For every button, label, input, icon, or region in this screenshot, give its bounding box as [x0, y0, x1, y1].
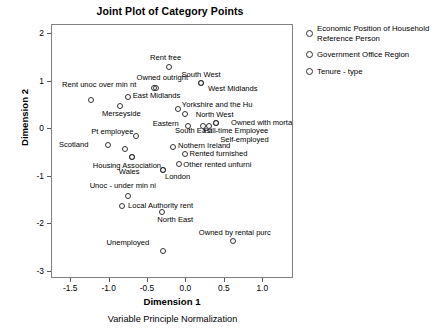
data-point-label: Merseyside — [102, 109, 141, 118]
legend-item[interactable]: Economic Position of Household Reference… — [306, 24, 434, 43]
x-tick — [70, 278, 71, 282]
data-point — [119, 203, 125, 209]
data-point-label: Wales — [119, 167, 140, 176]
data-point — [175, 106, 181, 112]
data-point — [213, 120, 219, 126]
legend-item-label: Tenure - type — [317, 67, 363, 77]
x-tick — [224, 278, 225, 282]
y-tick-label: -2 — [37, 218, 44, 228]
y-tick — [47, 33, 51, 34]
x-tick — [109, 278, 110, 282]
data-point — [176, 161, 182, 167]
y-tick — [47, 128, 51, 129]
open-circle-icon — [306, 51, 313, 58]
data-point-label: Rent free — [150, 53, 181, 62]
y-tick — [47, 271, 51, 272]
data-point-label: West Midlands — [208, 84, 258, 93]
data-point-label: Yorkshire and the Hu — [182, 100, 253, 109]
y-tick-label: 2 — [39, 28, 44, 38]
data-point — [230, 238, 236, 244]
data-point-label: Owned by rental purc — [199, 228, 271, 237]
x-tick — [185, 278, 186, 282]
y-tick-label: -3 — [37, 266, 44, 276]
x-tick-label: 1.0 — [256, 283, 268, 293]
y-tick — [47, 81, 51, 82]
y-tick-label: 1 — [39, 76, 44, 86]
data-point-label: East Midlands — [133, 91, 181, 100]
data-point — [166, 64, 172, 70]
data-point-label: Rented furnished — [190, 149, 248, 158]
x-tick-label: -0.5 — [140, 283, 154, 293]
chart-footnote: Variable Principle Normalization — [35, 314, 310, 324]
chart-title: Joint Plot of Category Points — [40, 5, 300, 17]
y-tick — [47, 176, 51, 177]
data-point-label: Unemployed — [107, 238, 150, 247]
data-point — [133, 133, 139, 139]
data-point — [182, 151, 188, 157]
data-point-label: Pt employee — [91, 127, 133, 136]
legend-item[interactable]: Government Office Region — [306, 50, 434, 60]
data-point — [182, 111, 188, 117]
data-point-label: Other rented unfurni — [183, 160, 251, 169]
data-point-label: South East — [175, 126, 212, 135]
x-tick — [147, 278, 148, 282]
legend-item-label: Government Office Region — [317, 50, 409, 60]
data-point — [105, 142, 111, 148]
data-point-label: London — [165, 172, 190, 181]
x-tick-label: -1.0 — [101, 283, 115, 293]
data-point-label: North West — [196, 110, 234, 119]
y-axis-title: Dimension 2 — [19, 48, 30, 188]
y-tick-label: -1 — [37, 171, 44, 181]
y-tick — [47, 223, 51, 224]
plot-inner: Rent freeSouth WestOwned outrightWest Mi… — [52, 25, 292, 277]
chart-root: Joint Plot of Category Points Rent freeS… — [0, 0, 435, 336]
open-circle-icon — [306, 30, 313, 37]
data-point — [129, 154, 135, 160]
y-tick-label: 0 — [39, 123, 44, 133]
x-axis-title: Dimension 1 — [51, 296, 293, 307]
x-tick — [262, 278, 263, 282]
data-point-label: Scotland — [59, 140, 89, 149]
data-point — [160, 248, 166, 254]
legend-item-label: Economic Position of Household Reference… — [317, 24, 434, 43]
x-tick-label: -1.5 — [63, 283, 77, 293]
data-point — [198, 80, 204, 86]
legend: Economic Position of Household Reference… — [306, 24, 434, 83]
data-point-label: Unoc - under min ni — [90, 181, 156, 190]
x-tick-label: 0.0 — [180, 283, 192, 293]
plot-area: Rent freeSouth WestOwned outrightWest Mi… — [51, 24, 293, 278]
data-point-label: Owned outright — [137, 73, 189, 82]
x-tick-label: 0.5 — [218, 283, 230, 293]
data-point — [88, 97, 94, 103]
legend-item[interactable]: Tenure - type — [306, 67, 434, 77]
data-point-label: North East — [157, 215, 193, 224]
data-point — [170, 144, 176, 150]
data-point — [125, 193, 131, 199]
data-point-label: Rent unoc over min nt — [62, 80, 136, 89]
data-point — [125, 94, 131, 100]
data-point — [122, 146, 128, 152]
open-circle-icon — [306, 68, 313, 75]
